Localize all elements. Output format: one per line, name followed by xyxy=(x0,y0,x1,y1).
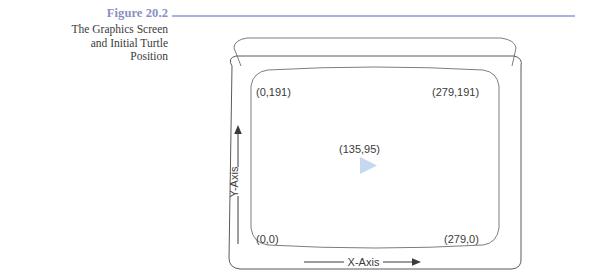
coord-label-bottom-right: (279,0) xyxy=(444,233,479,245)
x-axis-arrowhead-icon xyxy=(412,258,421,266)
coord-label-bottom-left: (0,0) xyxy=(256,233,279,245)
coord-label-top-right: (279,191) xyxy=(432,86,479,98)
y-axis-arrowhead-icon xyxy=(234,125,242,134)
turtle-cursor-icon xyxy=(360,157,377,174)
y-axis-label: Y-Axis xyxy=(228,166,240,197)
coord-label-center: (135,95) xyxy=(339,143,380,155)
monitor-lid-outline xyxy=(234,38,516,66)
x-axis-label: X-Axis xyxy=(348,256,380,268)
graphics-screen-diagram: (0,191) (279,191) (0,0) (279,0) (135,95)… xyxy=(0,0,597,272)
coord-label-top-left: (0,191) xyxy=(256,86,291,98)
page-canvas: Figure 20.2 The Graphics Screen and Init… xyxy=(0,0,597,272)
